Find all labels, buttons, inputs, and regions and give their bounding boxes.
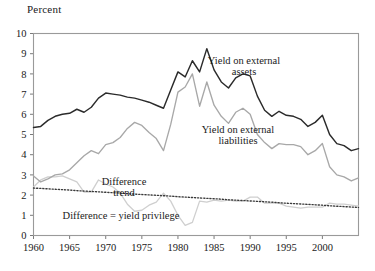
y-tick-label: 1 [21,210,26,221]
data-series-group [34,49,359,226]
label-yield-assets-line1: Yield on external [208,55,280,66]
y-axis-title: Percent [27,3,61,15]
series-yield-on-external-liabilities [34,74,359,182]
y-tick-label: 9 [21,48,26,59]
series-yield-on-external-assets [34,49,359,151]
x-tick-label: 1975 [131,242,152,253]
x-tick-label: 1965 [59,242,80,253]
x-tick-label: 1960 [23,242,44,253]
x-tick-label: 1970 [95,242,116,253]
label-difference-yield-privilege: Difference = yield privilege [63,210,180,221]
x-tick-label: 1995 [276,242,297,253]
label-yield-liabilities-line1: Yield on external [202,124,274,135]
series-difference-trend [34,188,359,207]
y-tick-label: 2 [21,190,26,201]
label-yield-liabilities-line2: liabilities [218,135,257,146]
label-yield-assets-line2: assets [232,66,257,77]
x-tick-label: 1990 [240,242,261,253]
line-chart: Yield on external assets Yield on extern… [0,0,375,271]
x-axis-labels: 196019651970197519801985199019952000 [23,242,333,253]
y-tick-label: 3 [21,170,26,181]
y-axis-labels: 012345678910 [16,28,27,241]
label-difference-trend-line2: trend [113,187,135,198]
y-tick-label: 5 [21,129,26,140]
y-tick-label: 4 [21,149,27,160]
label-difference-trend-line1: Difference [102,176,147,187]
y-tick-label: 8 [21,69,26,80]
y-tick-label: 0 [21,230,26,241]
y-tick-label: 6 [21,109,26,120]
y-tick-label: 10 [16,28,27,39]
y-tick-label: 7 [21,89,26,100]
x-tick-label: 1980 [167,242,188,253]
plot-frame [34,34,359,236]
x-tick-label: 2000 [312,242,333,253]
chart-figure: Percent Yield on external assets Yield o… [0,0,375,271]
x-tick-label: 1985 [204,242,225,253]
